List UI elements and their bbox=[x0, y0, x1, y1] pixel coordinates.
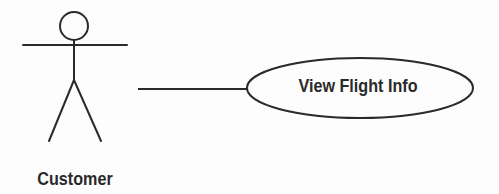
actor-stick-figure[interactable] bbox=[23, 12, 127, 141]
actor-head bbox=[60, 12, 88, 40]
actor-label: Customer bbox=[33, 168, 118, 190]
diagram-graphics bbox=[0, 0, 499, 194]
use-case-label: View Flight Info bbox=[282, 75, 435, 97]
actor-left-leg bbox=[49, 80, 74, 141]
actor-right-leg bbox=[74, 80, 101, 141]
use-case-diagram: Customer View Flight Info bbox=[0, 0, 499, 194]
